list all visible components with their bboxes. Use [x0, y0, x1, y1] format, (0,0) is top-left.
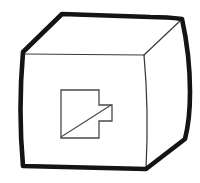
drawing-container: Line drawing of a cube with an arrow-sha… [0, 0, 200, 183]
cube-line-drawing: Line drawing of a cube with an arrow-sha… [0, 0, 200, 183]
cube-front-face [21, 52, 147, 169]
